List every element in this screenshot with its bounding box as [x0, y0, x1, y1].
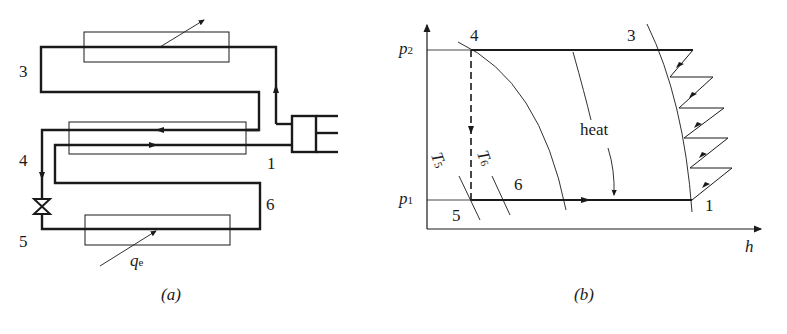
caption-a: (a) [161, 285, 181, 305]
compressor-body [292, 116, 316, 152]
heat-input-label: qe [130, 252, 143, 269]
internal-hx-box [69, 122, 246, 154]
refrigeration-circuit [34, 20, 338, 266]
condenser-heat-arrow [160, 20, 204, 47]
diagram-canvas [0, 0, 787, 334]
state-label-4: 4 [19, 152, 28, 169]
chart-state-4: 4 [470, 27, 479, 44]
state-label-5: 5 [19, 233, 28, 250]
pipe-liquid-line [42, 130, 259, 200]
state-label-3: 3 [19, 63, 28, 80]
chart-state-6: 6 [514, 176, 523, 193]
evaporator-heat-arrow [100, 231, 156, 266]
flow-arrow-right [149, 142, 158, 148]
isotherm-curve [458, 42, 566, 210]
heat-transfer-curve [573, 52, 591, 120]
pipe-evaporator [42, 145, 292, 229]
flow-arrow-left [155, 127, 164, 133]
chart-state-1: 1 [705, 197, 714, 214]
expansion-valve [34, 199, 50, 214]
flow-arrow-down [39, 172, 45, 180]
x-axis-label: h [745, 238, 754, 255]
saturation-curve-vapor [647, 24, 692, 212]
flow-arrow-up [273, 84, 279, 93]
y-tick-p1: p1 [399, 190, 413, 207]
heat-label: heat [580, 121, 608, 138]
chart-state-5: 5 [452, 207, 461, 224]
caption-b: (b) [574, 285, 594, 305]
state-label-1: 1 [267, 155, 276, 172]
y-tick-p2: p2 [399, 40, 413, 57]
state-label-6: 6 [266, 196, 275, 213]
pipe-condenser [41, 47, 276, 130]
chart-state-3: 3 [627, 27, 636, 44]
